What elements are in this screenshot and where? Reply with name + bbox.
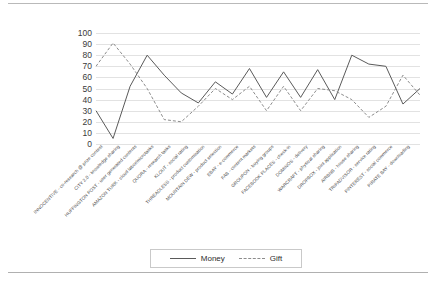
y-tick-label: 100 xyxy=(78,29,92,37)
y-tick-label: 30 xyxy=(83,107,92,115)
y-tick-label: 90 xyxy=(83,40,92,48)
line-chart: 1009080706050403020100 INNOCENTIVE - co-… xyxy=(0,10,436,255)
series-line-money xyxy=(96,55,420,138)
chart-legend: MoneyGift xyxy=(150,249,302,268)
y-tick-label: 10 xyxy=(83,129,92,137)
plot-area xyxy=(96,33,420,144)
y-tick-label: 70 xyxy=(83,62,92,70)
y-tick-label: 80 xyxy=(83,51,92,59)
top-divider-rule xyxy=(8,3,428,4)
x-tick-label: DOMINOS - delivery xyxy=(274,144,308,178)
y-tick-label: 40 xyxy=(83,96,92,104)
y-axis: 1009080706050403020100 xyxy=(60,33,92,144)
legend-item[interactable]: Gift xyxy=(239,254,282,263)
chart-page: 1009080706050403020100 INNOCENTIVE - co-… xyxy=(0,0,436,287)
legend-label: Gift xyxy=(270,254,282,263)
legend-key-dashed xyxy=(239,258,265,259)
legend-key-solid xyxy=(170,258,196,259)
bottom-divider-rule xyxy=(8,272,428,273)
y-tick-label: 50 xyxy=(83,85,92,93)
x-axis-labels: INNOCENTIVE - co-research @ prize contes… xyxy=(0,144,436,249)
y-tick-label: 60 xyxy=(83,73,92,81)
y-tick-label: 20 xyxy=(83,118,92,126)
legend-item[interactable]: Money xyxy=(170,254,225,263)
series-layer xyxy=(96,33,420,144)
legend-label: Money xyxy=(201,254,225,263)
x-tick-label: HUFFINGTON POST - user generated content… xyxy=(64,144,138,218)
